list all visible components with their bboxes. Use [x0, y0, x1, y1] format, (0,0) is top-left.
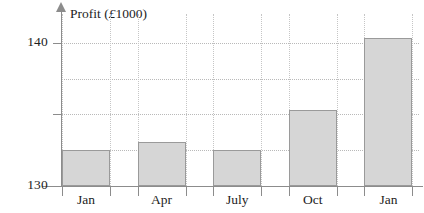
y-tick-mark-minor: [53, 114, 62, 115]
bar-chart: Profit (£1000) 130140 JanAprJulyOctJan: [0, 0, 424, 213]
x-tick-label-1: Apr: [127, 192, 197, 208]
plot-area: [62, 14, 419, 186]
bar-oct-3: [289, 110, 337, 186]
y-tick-mark: [53, 186, 62, 187]
bar-jan-0: [62, 150, 110, 186]
gridline-vertical: [412, 14, 413, 186]
gridline-vertical: [337, 14, 338, 186]
y-tick-mark: [53, 43, 62, 44]
bar-july-2: [213, 150, 261, 186]
x-tick-label-3: Oct: [278, 192, 348, 208]
bar-jan-4: [364, 38, 412, 186]
y-tick-label: 130: [0, 177, 48, 193]
x-tick-label-4: Jan: [353, 192, 423, 208]
gridline-vertical: [186, 14, 187, 186]
bar-apr-1: [138, 142, 186, 186]
x-tick-label-2: July: [202, 192, 272, 208]
gridline-vertical: [261, 14, 262, 186]
gridline-vertical: [110, 14, 111, 186]
y-tick-label: 140: [0, 34, 48, 50]
x-tick-label-0: Jan: [51, 192, 121, 208]
x-axis-line: [42, 186, 423, 187]
